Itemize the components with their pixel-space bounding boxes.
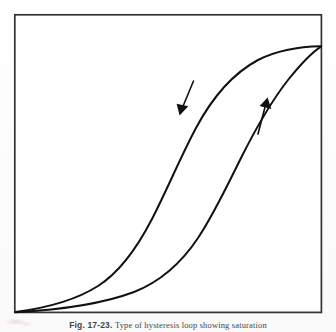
figure-page: Fig. 17-23. Type of hysteresis loop show… bbox=[0, 0, 336, 332]
figure-frame-border bbox=[15, 15, 322, 313]
figure-caption-body: Type of hysteresis loop showing saturati… bbox=[115, 321, 267, 330]
figure-caption-label: Fig. 17-23. bbox=[69, 321, 112, 330]
figure-caption-line: Fig. 17-23. Type of hysteresis loop show… bbox=[0, 321, 336, 330]
figure-caption: Fig. 17-23. Type of hysteresis loop show… bbox=[0, 321, 336, 332]
hysteresis-figure bbox=[0, 0, 336, 332]
